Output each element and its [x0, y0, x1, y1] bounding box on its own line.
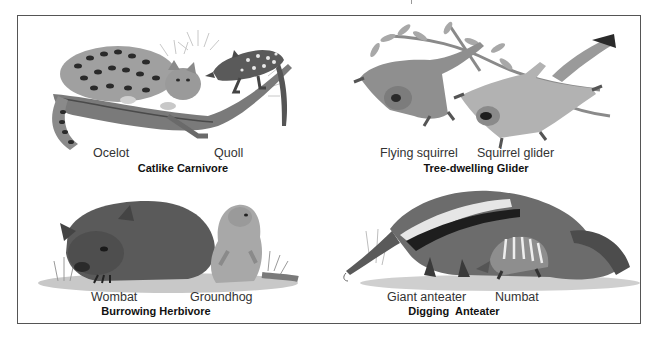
wombat-groundhog-illustration: [18, 171, 330, 299]
ocelot-quoll-illustration: [18, 16, 330, 151]
panel-title-burrowing-herbivore: Burrowing Herbivore: [101, 305, 210, 317]
animal-label-groundhog: Groundhog: [190, 290, 253, 304]
animal-label-flying-squirrel: Flying squirrel: [380, 146, 458, 160]
flying-squirrel-squirrel-glider-illustration: [330, 16, 642, 151]
animal-label-numbat: Numbat: [495, 290, 539, 304]
animal-label-ocelot: Ocelot: [93, 146, 129, 160]
panel-tree-dwelling-glider: Flying squirrel Squirrel glider Tree-dwe…: [330, 16, 642, 171]
figure-frame: Ocelot Quoll Catlike Carnivore: [17, 15, 641, 324]
panel-digging-anteater: Giant anteater Numbat Digging Anteater: [330, 171, 642, 325]
panel-catlike-carnivore: Ocelot Quoll Catlike Carnivore: [18, 16, 330, 171]
panel-burrowing-herbivore: Wombat Groundhog Burrowing Herbivore: [18, 171, 330, 325]
panel-title-digging-anteater: Digging Anteater: [408, 305, 499, 317]
animal-label-quoll: Quoll: [214, 146, 243, 160]
giant-anteater-numbat-illustration: [330, 171, 642, 299]
animal-label-giant-anteater: Giant anteater: [387, 290, 466, 304]
stray-mark: [411, 0, 412, 4]
animal-label-wombat: Wombat: [91, 290, 137, 304]
animal-label-squirrel-glider: Squirrel glider: [477, 146, 554, 160]
